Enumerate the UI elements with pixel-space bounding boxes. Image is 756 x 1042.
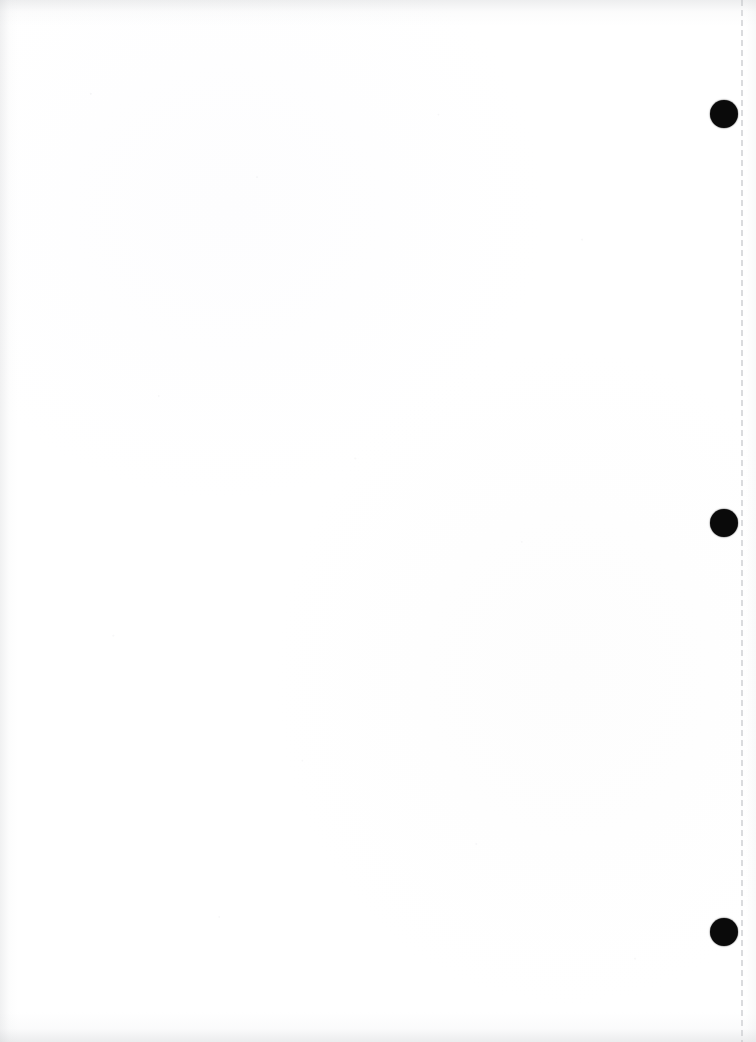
registration-dot-top xyxy=(710,100,738,128)
paper-surface xyxy=(0,0,756,1042)
registration-dot-middle xyxy=(710,509,738,537)
perforation-line xyxy=(741,0,743,1042)
registration-dot-bottom xyxy=(710,918,738,946)
scanned-page xyxy=(0,0,756,1042)
